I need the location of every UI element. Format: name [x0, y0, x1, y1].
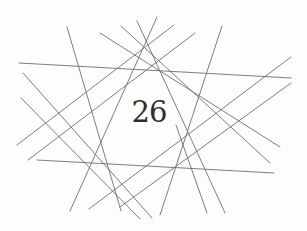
figure-page: 26 [0, 0, 307, 231]
line-segment-0 [19, 63, 291, 78]
line-segment-12 [89, 57, 291, 209]
line-segment-1 [37, 160, 274, 173]
line-segment-4 [67, 27, 121, 211]
page-number: 26 [128, 95, 170, 129]
line-segment-3 [21, 98, 140, 219]
